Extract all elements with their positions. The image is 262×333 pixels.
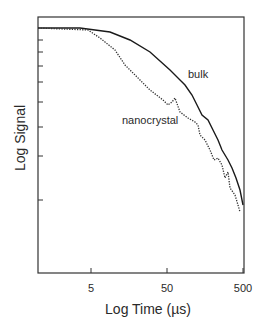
x-tick-label-5: 5 bbox=[88, 282, 94, 294]
bulk-annotation: bulk bbox=[188, 68, 209, 80]
chart: bulk nanocrystal 5 50 500 Log Time (µs) … bbox=[0, 0, 262, 333]
y-axis-ticks bbox=[38, 40, 43, 200]
x-tick-label-50: 50 bbox=[161, 282, 173, 294]
nanocrystal-annotation: nanocrystal bbox=[122, 114, 178, 126]
plot-frame bbox=[38, 17, 244, 273]
x-axis-label: Log Time (µs) bbox=[105, 301, 191, 317]
x-axis-ticks bbox=[91, 268, 243, 273]
y-axis-label: Log Signal bbox=[12, 105, 28, 171]
x-tick-label-500: 500 bbox=[234, 282, 252, 294]
